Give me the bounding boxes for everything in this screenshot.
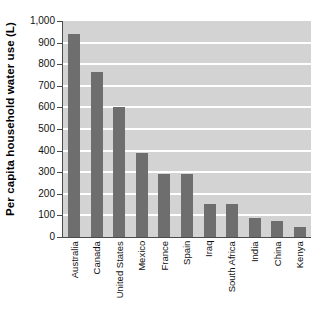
x-tick-label-text: China [272, 241, 282, 266]
x-tick-label-text: India [250, 241, 260, 262]
x-tick-label: Kenya [288, 240, 311, 315]
x-axis-tick-labels: AustraliaCanadaUnited StatesMexicoFrance… [63, 240, 311, 315]
x-tick-label: Australia [63, 240, 86, 315]
x-tick-label-text: Spain [182, 241, 192, 265]
bar[interactable] [91, 72, 103, 237]
x-tick-label-text: Iraq [205, 241, 215, 257]
x-tick-label: France [153, 240, 176, 315]
y-tick-label: 100 [38, 210, 55, 220]
x-tick-label-text: United States [115, 241, 125, 298]
bar[interactable] [68, 34, 80, 237]
y-tick-label: 800 [38, 59, 55, 69]
bar[interactable] [204, 204, 216, 237]
bar[interactable] [136, 153, 148, 237]
bar[interactable] [158, 174, 170, 237]
bar[interactable] [271, 221, 283, 237]
bar-slot [221, 21, 244, 237]
bar-slot [108, 21, 131, 237]
y-tick-label: 900 [38, 38, 55, 48]
x-axis-line [62, 237, 311, 238]
x-tick-label-text: South Africa [227, 241, 237, 292]
x-tick-label: United States [108, 240, 131, 315]
y-tick-label: 300 [38, 167, 55, 177]
x-tick-label: Mexico [131, 240, 154, 315]
y-tick-label: 1,000 [30, 16, 55, 26]
bar-slot [243, 21, 266, 237]
x-tick-label: China [266, 240, 289, 315]
bar[interactable] [113, 107, 125, 237]
bar[interactable] [226, 204, 238, 237]
y-tick-label: 700 [38, 81, 55, 91]
bar-slot [288, 21, 311, 237]
bar-slot [63, 21, 86, 237]
bar-chart-figure: Per capita household water use (L) 01002… [0, 0, 331, 315]
y-axis-title-text: Per capita household water use (L) [4, 22, 16, 216]
y-tick-label: 600 [38, 102, 55, 112]
plot-area [63, 21, 311, 237]
x-tick-label-text: Kenya [295, 241, 305, 268]
y-tick-label: 400 [38, 146, 55, 156]
x-tick-label-text: France [160, 241, 170, 271]
x-tick-label: India [243, 240, 266, 315]
x-tick-label: South Africa [221, 240, 244, 315]
bar[interactable] [181, 174, 193, 237]
bar-slot [86, 21, 109, 237]
bars-group [63, 21, 311, 237]
x-tick-label-text: Australia [70, 241, 80, 278]
x-tick-label: Iraq [198, 240, 221, 315]
x-tick-label-text: Mexico [137, 241, 147, 271]
bar[interactable] [294, 227, 306, 237]
bar-slot [266, 21, 289, 237]
bar-slot [153, 21, 176, 237]
x-tick-label: Canada [86, 240, 109, 315]
y-axis-title: Per capita household water use (L) [0, 0, 20, 238]
bar-slot [176, 21, 199, 237]
bar-slot [131, 21, 154, 237]
bar[interactable] [249, 218, 261, 237]
y-tick-label: 500 [38, 124, 55, 134]
x-tick-label: Spain [176, 240, 199, 315]
bar-slot [198, 21, 221, 237]
y-tick-label: 200 [38, 189, 55, 199]
y-tick-label: 0 [49, 232, 55, 242]
x-tick-label-text: Canada [92, 241, 102, 274]
y-axis-tick-labels: 01002003004005006007008009001,000 [20, 21, 55, 237]
